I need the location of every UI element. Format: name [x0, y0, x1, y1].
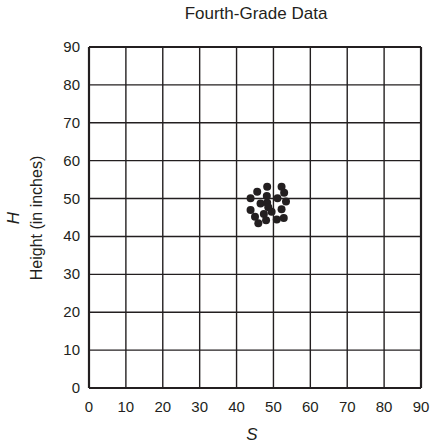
- data-point: [262, 216, 270, 224]
- x-tick-label: 60: [302, 398, 319, 415]
- data-point: [268, 208, 276, 216]
- x-tick-label: 50: [265, 398, 282, 415]
- y-tick-label: 80: [63, 76, 80, 93]
- data-point: [263, 192, 271, 200]
- y-tick-label: 30: [63, 265, 80, 282]
- data-point: [280, 189, 288, 197]
- scatter-plot: 0102030405060708090 0102030405060708090 …: [0, 0, 432, 447]
- y-tick-label: 20: [63, 303, 80, 320]
- data-point: [263, 183, 271, 191]
- data-points: [247, 183, 290, 227]
- y-tick-label: 0: [72, 379, 80, 396]
- x-tick-label: 0: [85, 398, 93, 415]
- data-point: [278, 205, 286, 213]
- y-tick-label: 60: [63, 152, 80, 169]
- x-tick-label: 40: [228, 398, 245, 415]
- y-axis-symbol: H: [4, 211, 23, 224]
- y-tick-label: 50: [63, 190, 80, 207]
- x-axis-ticks: 0102030405060708090: [85, 398, 430, 415]
- data-point: [247, 206, 255, 214]
- y-tick-label: 10: [63, 341, 80, 358]
- data-point: [282, 198, 290, 206]
- data-point: [274, 194, 282, 202]
- data-point: [254, 219, 262, 227]
- x-tick-label: 80: [376, 398, 393, 415]
- y-axis-label: Height (in inches): [28, 156, 45, 281]
- x-axis-label: S: [246, 425, 258, 444]
- data-point: [253, 188, 261, 196]
- data-point: [247, 194, 255, 202]
- data-point: [273, 215, 281, 223]
- x-tick-label: 10: [118, 398, 135, 415]
- x-tick-label: 90: [413, 398, 430, 415]
- y-axis-ticks: 0102030405060708090: [63, 38, 80, 396]
- y-tick-label: 90: [63, 38, 80, 55]
- x-tick-label: 70: [339, 398, 356, 415]
- data-point: [280, 214, 288, 222]
- y-tick-label: 40: [63, 227, 80, 244]
- y-tick-label: 70: [63, 114, 80, 131]
- x-tick-label: 20: [154, 398, 171, 415]
- x-tick-label: 30: [191, 398, 208, 415]
